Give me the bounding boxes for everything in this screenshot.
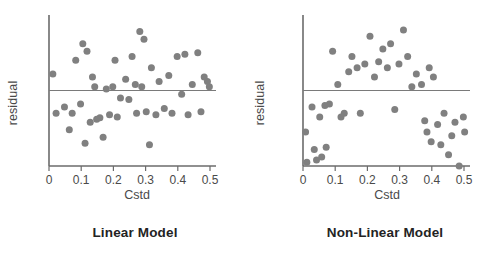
data-point [72,57,79,64]
data-point [114,113,121,120]
data-point [53,110,60,117]
data-point [87,119,94,126]
x-axis-tick-label: 0.5 [202,173,219,187]
data-point [129,53,136,60]
data-point [69,110,76,117]
panel-caption-non-linear: Non-Linear Model [247,225,493,240]
data-point [77,101,84,108]
data-point [423,129,430,136]
x-axis-label-linear: Cstd [0,188,246,202]
x-axis-tick-label: 0.2 [359,173,376,187]
data-points [302,27,468,170]
data-point [354,64,361,71]
x-axis-tick-label: 0.2 [105,173,122,187]
data-point [103,85,110,92]
data-point [156,78,163,85]
data-point [140,36,147,43]
data-point [428,138,435,145]
data-point [437,141,444,148]
data-point [185,111,192,118]
data-point [309,104,316,111]
data-point [461,129,468,136]
data-point [413,70,420,77]
data-point [323,144,330,151]
data-point [49,70,56,77]
data-point [418,81,425,88]
data-point [329,48,336,55]
y-axis-label-linear: residual [6,58,22,148]
data-point [400,27,407,34]
x-axis-tick-label: 0 [300,173,307,187]
data-point [448,132,455,139]
panel-caption-linear: Linear Model [0,225,246,240]
data-point [348,53,355,60]
data-point [357,110,364,117]
data-point [152,111,159,118]
data-point [189,81,196,88]
data-point [66,126,73,133]
data-point [194,49,201,56]
data-point [146,141,153,148]
data-point [181,51,188,58]
data-point [161,105,168,112]
data-point [122,76,129,83]
data-point [206,83,213,90]
data-points [49,28,213,148]
data-point [136,28,143,35]
data-point [61,104,68,111]
data-point [384,64,391,71]
x-axis-tick-label: 0.3 [391,173,408,187]
data-point [361,61,368,68]
x-axis-label-non-linear: Cstd [247,188,493,202]
data-point [138,83,145,90]
data-point [82,140,89,147]
data-point [197,108,204,115]
data-point [100,134,107,141]
data-point [112,57,119,64]
x-axis-tick-label: 0.4 [169,173,186,187]
data-point [421,117,428,124]
data-point [460,113,467,120]
x-axis-tick-label: 0.1 [73,173,90,187]
data-point [303,159,310,166]
panel-non-linear-model: 00.10.20.30.40.5 residual Cstd Non-Linea… [247,0,493,260]
x-axis-tick-label: 0.1 [327,173,344,187]
residual-plots-figure: 00.10.20.30.40.5 residual Cstd Linear Mo… [0,0,493,260]
data-point [387,40,394,47]
plot-area-non-linear: 00.10.20.30.40.5 [247,0,493,210]
data-point [375,58,382,65]
data-point [148,64,155,71]
data-point [79,40,86,47]
data-point [345,68,352,75]
data-point [371,73,378,80]
data-point [165,72,172,79]
data-point [441,110,448,117]
data-point [451,119,458,126]
data-point [302,129,309,136]
panel-linear-model: 00.10.20.30.40.5 residual Cstd Linear Mo… [0,0,246,260]
data-point [408,83,415,90]
x-axis-tick-label: 0 [46,173,53,187]
data-point [311,146,318,153]
plot-area-linear: 00.10.20.30.40.5 [0,0,246,210]
data-point [456,163,463,170]
data-point [434,121,441,128]
data-point [117,95,124,102]
data-point [366,33,373,40]
scatter-plot-non-linear: 00.10.20.30.40.5 [247,0,493,210]
data-point [84,48,91,55]
x-axis-tick-label: 0.5 [456,173,473,187]
data-point [89,73,96,80]
data-point [404,53,411,60]
data-point [316,113,323,120]
data-point [133,110,140,117]
x-axis-tick-label: 0.4 [423,173,440,187]
data-point [96,114,103,121]
data-point [143,108,150,115]
y-axis-label-non-linear: residual [253,58,269,148]
data-point [426,64,433,71]
data-point [445,151,452,158]
data-point [341,110,348,117]
data-point [91,83,98,90]
data-point [174,53,181,60]
